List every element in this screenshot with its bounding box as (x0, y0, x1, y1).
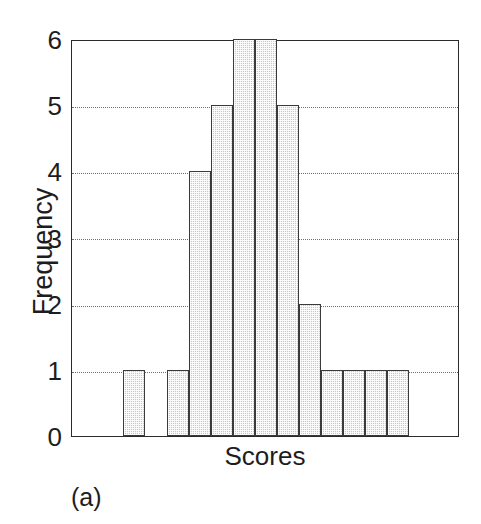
histogram-bar (321, 370, 343, 436)
histogram-bar (387, 370, 409, 436)
histogram-bars (72, 41, 458, 436)
y-tick-label-6: 6 (36, 27, 62, 53)
panel-label: (a) (71, 485, 102, 510)
y-tick-label-0: 0 (36, 424, 62, 450)
y-axis-title: Frequency (30, 132, 57, 372)
histogram-bar (123, 370, 145, 436)
histogram-bar (255, 39, 277, 436)
histogram-bar (233, 39, 255, 436)
x-axis-title: Scores (71, 443, 459, 469)
histogram-figure: 6 5 4 3 2 1 0 Frequency (0, 0, 481, 524)
histogram-bar (343, 370, 365, 436)
histogram-bar (167, 370, 189, 436)
histogram-bar (189, 171, 211, 436)
plot-area (71, 40, 459, 437)
histogram-bar (277, 105, 299, 436)
y-tick-label-5: 5 (36, 93, 62, 119)
histogram-bar (299, 304, 321, 436)
histogram-bar (365, 370, 387, 436)
histogram-bar (211, 105, 233, 436)
